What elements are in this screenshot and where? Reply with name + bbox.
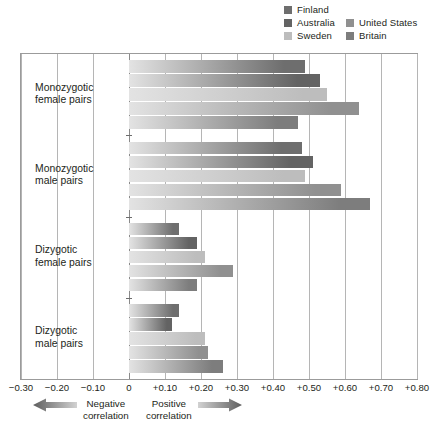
arrow-right-icon <box>198 398 242 412</box>
category-label-1: Monozygotic male pairs <box>35 163 127 188</box>
bar-group-0: Monozygotic female pairs <box>21 54 417 135</box>
x-tick-label-6: +0.30 <box>225 382 249 394</box>
category-label-2: Dizygotic female pairs <box>35 244 127 269</box>
bar-sweden-group-1 <box>129 170 305 182</box>
positive-correlation-label: Positive correlation <box>146 398 192 423</box>
x-tick-label-9: +0.60 <box>333 382 357 394</box>
positive-correlation-note: Positive correlation <box>146 398 242 423</box>
bar-australia-group-2 <box>129 237 197 249</box>
x-tick-label-5: +0.20 <box>189 382 213 394</box>
twin-correlation-bar-chart: Finland Australia Sweden United States B… <box>0 0 442 438</box>
bar-australia-group-0 <box>129 74 320 86</box>
bar-britain-group-1 <box>129 198 370 210</box>
category-label-0: Monozygotic female pairs <box>35 82 127 107</box>
legend-column-2: United States Britain <box>346 16 417 43</box>
x-axis-tick-labels: −0.30−0.20−0.100+0.10+0.20+0.30+0.40+0.5… <box>0 382 442 398</box>
x-tick-label-8: +0.50 <box>297 382 321 394</box>
legend-label-united-states: United States <box>359 18 417 28</box>
bar-finland-group-0 <box>129 60 305 72</box>
legend-label-finland: Finland <box>297 5 329 15</box>
legend-item-finland: Finland <box>284 3 335 16</box>
plot-area: Monozygotic female pairsMonozygotic male… <box>20 53 418 380</box>
legend-column-1: Finland Australia Sweden <box>284 3 335 43</box>
legend-label-australia: Australia <box>297 18 335 28</box>
x-tick-label-3: 0 <box>126 382 131 394</box>
legend-swatch-united-states <box>346 19 354 27</box>
legend-swatch-britain <box>346 32 354 40</box>
category-tick-3 <box>126 298 132 299</box>
x-tick-label-7: +0.40 <box>261 382 285 394</box>
bar-sweden-group-0 <box>129 88 327 100</box>
bar-finland-group-2 <box>129 223 179 235</box>
legend-item-united-states: United States <box>346 16 417 29</box>
x-tick-label-11: +0.80 <box>405 382 429 394</box>
legend-swatch-sweden <box>284 32 292 40</box>
bar-united-states-group-2 <box>129 265 233 277</box>
negative-correlation-note: Negative correlation <box>33 398 129 423</box>
bar-australia-group-3 <box>129 318 172 330</box>
bar-united-states-group-1 <box>129 184 341 196</box>
legend-label-britain: Britain <box>359 31 387 41</box>
negative-correlation-label: Negative correlation <box>83 398 129 423</box>
bar-sweden-group-3 <box>129 332 205 344</box>
bar-britain-group-0 <box>129 116 298 128</box>
arrow-left-icon <box>33 398 77 412</box>
bar-finland-group-1 <box>129 142 302 154</box>
category-label-3: Dizygotic male pairs <box>35 325 127 350</box>
legend-item-britain: Britain <box>346 30 417 43</box>
bar-britain-group-3 <box>129 360 223 372</box>
bar-finland-group-3 <box>129 304 179 316</box>
x-tick-label-10: +0.70 <box>369 382 393 394</box>
legend-item-australia: Australia <box>284 16 335 29</box>
x-tick-label-0: −0.30 <box>9 382 33 394</box>
legend-item-sweden: Sweden <box>284 30 335 43</box>
x-tick-label-1: −0.20 <box>45 382 69 394</box>
bar-group-2: Dizygotic female pairs <box>21 217 417 298</box>
category-tick-2 <box>126 217 132 218</box>
bar-united-states-group-3 <box>129 346 208 358</box>
x-tick-label-4: +0.10 <box>153 382 177 394</box>
chart-footer: Negative correlation Positive correlatio… <box>0 398 442 434</box>
bar-australia-group-1 <box>129 156 313 168</box>
bar-united-states-group-0 <box>129 102 359 114</box>
bar-sweden-group-2 <box>129 251 205 263</box>
chart-legend: Finland Australia Sweden United States B… <box>284 3 442 43</box>
legend-label-sweden: Sweden <box>297 31 332 41</box>
bar-group-3: Dizygotic male pairs <box>21 298 417 379</box>
bar-group-1: Monozygotic male pairs <box>21 135 417 216</box>
x-tick-label-2: −0.10 <box>81 382 105 394</box>
gridline-11 <box>417 54 418 379</box>
bar-britain-group-2 <box>129 279 197 291</box>
legend-swatch-australia <box>284 19 292 27</box>
category-tick-1 <box>126 135 132 136</box>
legend-swatch-finland <box>284 6 292 14</box>
